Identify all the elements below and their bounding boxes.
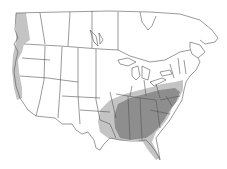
pacific-coast-range [12,13,30,100]
boundary-lines [14,11,218,160]
range-map [0,0,227,169]
